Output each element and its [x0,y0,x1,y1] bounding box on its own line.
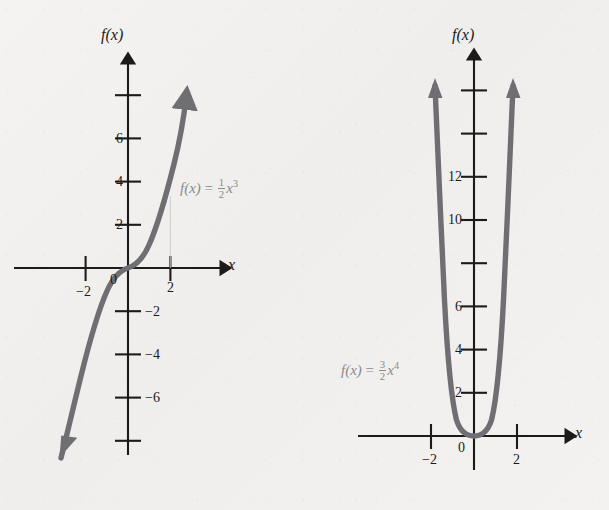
quartic-left-arm-arrow [428,78,443,98]
figure-page: f(x) x 0 6 4 2 −2 −4 −6 −2 2 f(x) = 1 2 … [0,0,609,510]
quartic-y-tick-label-12: 12 [440,169,462,185]
quartic-eq-variable: x [387,362,394,378]
quartic-eq-exponent: 4 [394,360,399,371]
quartic-figure: f(x) x 0 12 10 6 4 2 −2 2 f(x) = 3 2 x4 [0,0,609,510]
quartic-origin-label: 0 [458,440,465,456]
quartic-graph-svg [0,0,609,510]
quartic-eq-denominator: 2 [379,371,386,382]
quartic-right-arm-arrow [506,78,521,98]
quartic-eq-fn: f(x) [341,362,362,378]
quartic-y-axis [461,58,487,470]
quartic-y-tick-label-6: 6 [444,299,462,315]
quartic-x-tick-label-neg2: −2 [422,452,437,468]
quartic-y-tick-label-4: 4 [444,342,462,358]
quartic-y-tick-label-2: 2 [444,385,462,401]
quartic-y-axis-label: f(x) [452,26,474,44]
quartic-x-tick-label-2: 2 [513,452,520,468]
quartic-eq-fraction: 3 2 [379,359,386,382]
quartic-y-tick-label-10: 10 [440,212,462,228]
quartic-equation-label: f(x) = 3 2 x4 [341,359,399,382]
quartic-x-axis-label: x [575,424,582,442]
quartic-eq-equals: = [366,362,374,378]
